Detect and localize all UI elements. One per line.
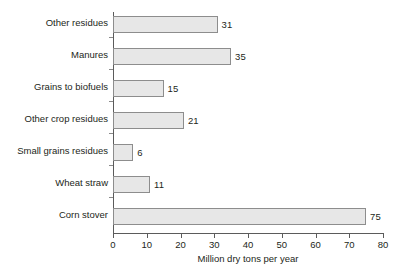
bar-value-label: 31 (222, 18, 233, 31)
x-axis-tick (113, 234, 114, 238)
x-axis-tick (383, 234, 384, 238)
x-axis-tick (282, 234, 283, 238)
x-axis-tick-label: 70 (344, 239, 355, 250)
bar[interactable] (113, 176, 150, 193)
category-label: Small grains residues (0, 144, 108, 157)
bar[interactable] (113, 112, 184, 129)
category-label: Corn stover (0, 208, 108, 221)
bar[interactable] (113, 144, 133, 161)
bar[interactable] (113, 208, 366, 225)
bar-value-label: 21 (188, 114, 199, 127)
x-axis-tick-label: 60 (310, 239, 321, 250)
x-axis-tick (316, 234, 317, 238)
x-axis-tick-label: 30 (209, 239, 220, 250)
category-label: Manures (0, 48, 108, 61)
x-axis-tick-label: 0 (110, 239, 115, 250)
x-axis-tick (248, 234, 249, 238)
bar-value-label: 75 (370, 210, 381, 223)
x-axis-tick-label: 10 (142, 239, 153, 250)
x-axis-tick (214, 234, 215, 238)
bar[interactable] (113, 48, 231, 65)
category-label: Grains to biofuels (0, 80, 108, 93)
category-label: Other residues (0, 16, 108, 29)
plot-area: 31 35 15 21 6 11 75 (113, 14, 383, 233)
x-axis-tick (181, 234, 182, 238)
bar-value-label: 35 (235, 50, 246, 63)
category-label: Wheat straw (0, 176, 108, 189)
x-axis-tick-label: 40 (243, 239, 254, 250)
category-label: Other crop residues (0, 112, 108, 125)
bar-chart: Other residues Manures Grains to biofuel… (0, 0, 411, 272)
x-axis-tick-label: 50 (277, 239, 288, 250)
x-axis-tick (349, 234, 350, 238)
bar[interactable] (113, 16, 218, 33)
x-axis-tick-label: 20 (175, 239, 186, 250)
bar[interactable] (113, 80, 164, 97)
category-axis-labels: Other residues Manures Grains to biofuel… (0, 0, 108, 272)
x-axis-tick (147, 234, 148, 238)
x-axis-tick-label: 80 (378, 239, 389, 250)
bar-value-label: 6 (137, 146, 142, 159)
x-axis-title: Million dry tons per year (113, 253, 383, 264)
bar-value-label: 15 (168, 82, 179, 95)
bar-value-label: 11 (154, 178, 164, 191)
